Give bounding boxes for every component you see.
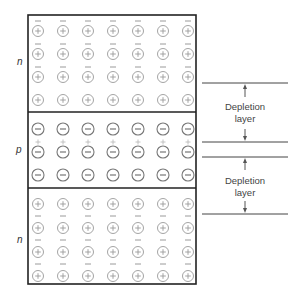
- donor-ion-icon: [83, 247, 94, 258]
- donor-ion-icon: [108, 247, 119, 258]
- acceptor-ion-icon: [32, 169, 44, 181]
- donor-ion-icon: [158, 247, 169, 258]
- depletion-label-line1: Depletion: [215, 175, 275, 187]
- depletion-label-top: Depletion layer: [215, 101, 275, 125]
- depletion-label-line1: Depletion: [215, 101, 275, 113]
- acceptor-ion-icon: [157, 169, 169, 181]
- hole-icon: [186, 140, 191, 145]
- donor-ion-icon: [133, 247, 144, 258]
- acceptor-ion-icon: [107, 169, 119, 181]
- donor-ion-icon: [83, 223, 94, 234]
- donor-ion-icon: [158, 95, 169, 106]
- donor-ion-icon: [33, 72, 44, 83]
- acceptor-ion-icon: [107, 123, 119, 135]
- acceptor-ion-icon: [132, 123, 144, 135]
- diagram-canvas: [0, 0, 301, 297]
- pn-junction-diagram: n p n Depletion layer Depletion layer: [0, 0, 301, 297]
- donor-ion-icon: [83, 72, 94, 83]
- acceptor-ion-icon: [82, 146, 94, 158]
- donor-ion-icon: [83, 271, 94, 282]
- donor-ion-icon: [133, 26, 144, 37]
- donor-ion-icon: [33, 49, 44, 60]
- donor-ion-icon: [133, 223, 144, 234]
- donor-ion-icon: [83, 199, 94, 210]
- acceptor-ion-icon: [32, 123, 44, 135]
- donor-ion-icon: [183, 199, 194, 210]
- donor-ion-icon: [158, 72, 169, 83]
- donor-ion-icon: [58, 247, 69, 258]
- hole-icon: [61, 140, 66, 145]
- acceptor-ion-icon: [182, 169, 194, 181]
- donor-ion-icon: [133, 72, 144, 83]
- donor-ion-icon: [33, 247, 44, 258]
- donor-ion-icon: [83, 49, 94, 60]
- donor-ion-icon: [33, 271, 44, 282]
- hole-icon: [136, 140, 141, 145]
- depletion-label-bottom: Depletion layer: [215, 175, 275, 199]
- acceptor-ion-icon: [182, 123, 194, 135]
- depletion-label-line2: layer: [215, 113, 275, 125]
- arrow-down-icon: [243, 129, 247, 141]
- donor-ion-icon: [33, 199, 44, 210]
- donor-ion-icon: [108, 95, 119, 106]
- acceptor-ion-icon: [182, 146, 194, 158]
- donor-ion-icon: [108, 72, 119, 83]
- region-label-n-bottom: n: [17, 234, 23, 245]
- donor-ion-icon: [58, 95, 69, 106]
- donor-ion-icon: [33, 223, 44, 234]
- donor-ion-icon: [58, 26, 69, 37]
- donor-ion-icon: [183, 271, 194, 282]
- acceptor-ion-icon: [132, 146, 144, 158]
- donor-ion-icon: [108, 49, 119, 60]
- hole-icon: [36, 140, 41, 145]
- donor-ion-icon: [83, 95, 94, 106]
- donor-ion-icon: [158, 49, 169, 60]
- donor-ion-icon: [33, 95, 44, 106]
- donor-ion-icon: [58, 271, 69, 282]
- acceptor-ion-icon: [32, 146, 44, 158]
- acceptor-ion-icon: [57, 169, 69, 181]
- donor-ion-icon: [133, 199, 144, 210]
- donor-ion-icon: [183, 26, 194, 37]
- donor-ion-icon: [133, 271, 144, 282]
- hole-icon: [86, 140, 91, 145]
- donor-ion-icon: [183, 95, 194, 106]
- donor-ion-icon: [133, 95, 144, 106]
- depletion-label-line2: layer: [215, 187, 275, 199]
- donor-ion-icon: [158, 26, 169, 37]
- acceptor-ion-icon: [157, 146, 169, 158]
- donor-ion-icon: [158, 271, 169, 282]
- acceptor-ion-icon: [57, 123, 69, 135]
- donor-ion-icon: [83, 26, 94, 37]
- acceptor-ion-icon: [107, 146, 119, 158]
- hole-icon: [111, 140, 116, 145]
- acceptor-ion-icon: [157, 123, 169, 135]
- acceptor-ion-icon: [57, 146, 69, 158]
- donor-ion-icon: [158, 223, 169, 234]
- region-label-n-top: n: [17, 56, 23, 67]
- donor-ion-icon: [133, 49, 144, 60]
- acceptor-ion-icon: [132, 169, 144, 181]
- donor-ion-icon: [58, 223, 69, 234]
- donor-ion-icon: [183, 72, 194, 83]
- donor-ion-icon: [108, 271, 119, 282]
- acceptor-ion-icon: [82, 169, 94, 181]
- donor-ion-icon: [33, 26, 44, 37]
- charge-carriers: [32, 21, 194, 282]
- arrow-up-icon: [243, 158, 247, 170]
- donor-ion-icon: [183, 247, 194, 258]
- donor-ion-icon: [58, 72, 69, 83]
- donor-ion-icon: [158, 199, 169, 210]
- donor-ion-icon: [108, 26, 119, 37]
- arrow-up-icon: [243, 84, 247, 97]
- donor-ion-icon: [58, 49, 69, 60]
- acceptor-ion-icon: [82, 123, 94, 135]
- donor-ion-icon: [108, 199, 119, 210]
- arrow-down-icon: [243, 201, 247, 213]
- donor-ion-icon: [108, 223, 119, 234]
- region-label-p: p: [16, 144, 22, 155]
- donor-ion-icon: [183, 223, 194, 234]
- donor-ion-icon: [183, 49, 194, 60]
- semiconductor-box: [28, 15, 196, 284]
- donor-ion-icon: [58, 199, 69, 210]
